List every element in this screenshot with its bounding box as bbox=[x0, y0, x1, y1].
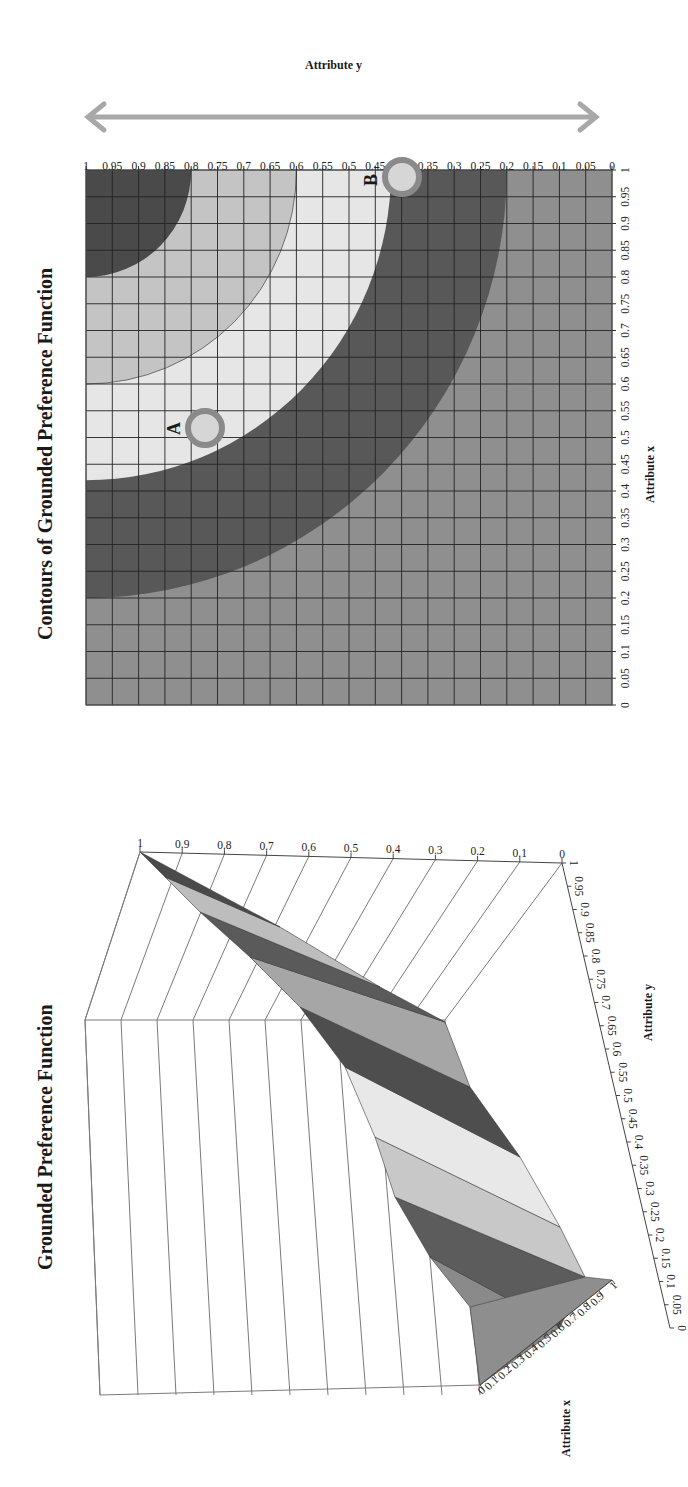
surface-chart-title: Grounded Preference Function bbox=[34, 1004, 56, 1270]
surface-chart: Grounded Preference Function 00.10.20.30… bbox=[34, 837, 688, 1457]
contour-chart: Contours of Grounded Preference Function… bbox=[0, 0, 657, 708]
z-tick-label: 0.5 bbox=[344, 842, 359, 854]
x-tick-label: 0.45 bbox=[619, 454, 631, 474]
y-tick-label: 0.3 bbox=[644, 1181, 656, 1196]
x-tick-label: 0.1 bbox=[619, 644, 631, 659]
point-b-label: B bbox=[361, 174, 381, 186]
x-tick-label: 1 bbox=[607, 1279, 620, 1292]
z-tick-label: 0.4 bbox=[386, 843, 401, 855]
attribute-y-arrow bbox=[88, 104, 596, 130]
y-tick-label: 0.7 bbox=[600, 995, 612, 1010]
y-tick-label: 0.4 bbox=[633, 1135, 645, 1150]
y-tick-label: 0.9 bbox=[579, 902, 591, 917]
y-tick-label: 0.25 bbox=[649, 1202, 661, 1222]
y-tick-label: 0.15 bbox=[523, 160, 543, 172]
x-tick-label: 0.95 bbox=[619, 186, 631, 206]
y-tick-label: 0.75 bbox=[595, 969, 607, 989]
y-tick-label: 0 bbox=[676, 1325, 688, 1331]
x-tick-label: 0.3 bbox=[619, 537, 631, 552]
figure-canvas: Grounded Preference Function 00.10.20.30… bbox=[0, 0, 688, 1487]
y-tick-label: 0.65 bbox=[606, 1016, 618, 1036]
x-tick-label: 0.25 bbox=[619, 561, 631, 581]
y-tick-label: 0.55 bbox=[617, 1062, 629, 1082]
y-tick-label: 0.15 bbox=[660, 1248, 672, 1268]
y-tick-label: 0.7 bbox=[237, 160, 252, 172]
z-tick-label: 0 bbox=[559, 848, 565, 860]
surface-y-axis: 00.050.10.150.20.250.30.350.40.450.50.55… bbox=[562, 860, 688, 1331]
x-tick-label: 0.4 bbox=[619, 484, 631, 499]
x-tick-label: 0.7 bbox=[619, 323, 631, 338]
y-tick-label: 0.8 bbox=[590, 949, 602, 964]
x-tick-label: 0.05 bbox=[619, 668, 631, 688]
y-tick-label: 0.05 bbox=[671, 1295, 683, 1315]
x-tick-label: 0.65 bbox=[619, 347, 631, 367]
z-tick-label: 0.6 bbox=[302, 841, 317, 853]
x-tick-label: 0.55 bbox=[619, 400, 631, 420]
y-tick-label: 0.05 bbox=[576, 160, 596, 172]
y-tick-label: 0.6 bbox=[611, 1042, 623, 1057]
y-tick-label: 0 bbox=[609, 160, 615, 172]
y-tick-label: 0.35 bbox=[418, 160, 438, 172]
surface-z-axis: 00.10.20.30.40.50.60.70.80.91 bbox=[137, 837, 565, 863]
surface-mesh bbox=[140, 852, 612, 1385]
x-tick-label: 0.85 bbox=[619, 240, 631, 260]
z-tick-label: 0.7 bbox=[259, 840, 274, 852]
y-tick-label: 0.6 bbox=[289, 160, 304, 172]
z-tick-label: 0.2 bbox=[470, 845, 485, 857]
y-tick-label: 0.5 bbox=[342, 160, 357, 172]
y-tick-label: 0.95 bbox=[573, 876, 585, 896]
y-tick-label: 0.95 bbox=[102, 160, 122, 172]
y-tick-label: 0.1 bbox=[665, 1274, 677, 1289]
y-tick-label: 0.45 bbox=[365, 160, 385, 172]
z-tick-label: 0.9 bbox=[175, 838, 190, 850]
contour-y-axis: 00.050.10.150.20.250.30.350.40.450.50.55… bbox=[83, 160, 615, 172]
x-tick-label: 0 bbox=[619, 702, 631, 708]
point-a-label: A bbox=[164, 422, 184, 435]
y-tick-label: 0.2 bbox=[654, 1228, 666, 1243]
y-tick-label: 0.8 bbox=[184, 160, 199, 172]
y-tick-label: 1 bbox=[83, 160, 89, 172]
x-tick-label: 0.75 bbox=[619, 293, 631, 313]
z-tick-label: 0.1 bbox=[513, 847, 528, 859]
y-tick-label: 0.1 bbox=[552, 160, 567, 172]
x-tick-label: 0.35 bbox=[619, 507, 631, 527]
y-tick-label: 0.85 bbox=[584, 923, 596, 943]
y-tick-label: 0.65 bbox=[260, 160, 280, 172]
contour-x-axis: 00.050.10.150.20.250.30.350.40.450.50.55… bbox=[612, 167, 631, 708]
x-tick-label: 1 bbox=[619, 167, 631, 173]
y-tick-label: 1 bbox=[568, 860, 580, 866]
surface-x-axis-label: Attribute x bbox=[559, 1400, 573, 1457]
y-tick-label: 0.45 bbox=[627, 1109, 639, 1129]
contour-chart-title: Contours of Grounded Preference Function bbox=[34, 268, 56, 640]
figure-svg: Grounded Preference Function 00.10.20.30… bbox=[0, 0, 688, 1487]
contour-x-axis-label: Attribute x bbox=[643, 446, 657, 503]
x-tick-label: 0.2 bbox=[619, 591, 631, 606]
x-tick-label: 0.5 bbox=[619, 430, 631, 445]
y-tick-label: 0.2 bbox=[500, 160, 515, 172]
y-tick-label: 0.3 bbox=[447, 160, 462, 172]
x-tick-label: 0.6 bbox=[619, 377, 631, 392]
x-tick-label: 0.8 bbox=[619, 270, 631, 285]
y-tick-label: 0.35 bbox=[638, 1155, 650, 1175]
contour-plot-area bbox=[0, 0, 612, 705]
y-tick-label: 0.85 bbox=[155, 160, 175, 172]
y-tick-label: 0.75 bbox=[207, 160, 227, 172]
surface-y-axis-label: Attribute y bbox=[641, 984, 655, 1041]
z-tick-label: 1 bbox=[137, 837, 143, 849]
y-tick-label: 0.9 bbox=[131, 160, 146, 172]
contour-y-axis-label: Attribute y bbox=[305, 58, 362, 72]
contour-grid bbox=[86, 170, 612, 705]
x-tick-label: 0.9 bbox=[619, 216, 631, 231]
y-tick-label: 0.25 bbox=[470, 160, 490, 172]
z-tick-label: 0.8 bbox=[217, 839, 232, 851]
x-tick-label: 0.15 bbox=[619, 614, 631, 634]
y-tick-label: 0.5 bbox=[622, 1088, 634, 1103]
y-tick-label: 0.55 bbox=[313, 160, 333, 172]
z-tick-label: 0.3 bbox=[428, 844, 443, 856]
